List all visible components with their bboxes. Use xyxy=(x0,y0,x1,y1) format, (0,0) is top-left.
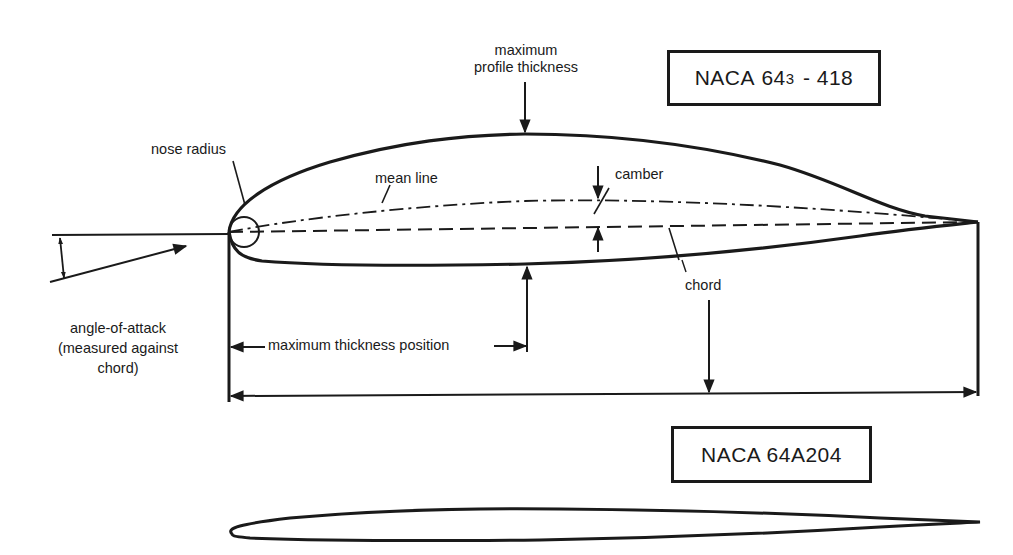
aoa-reference-line xyxy=(52,234,229,235)
naca-series: 64 xyxy=(761,66,785,90)
aoa-angle-arrow xyxy=(60,238,64,278)
chord-leader-dash xyxy=(682,260,686,272)
mean-line xyxy=(229,200,978,232)
nose-radius-leader xyxy=(233,161,245,205)
aoa-line1: angle-of-attack xyxy=(38,318,198,338)
naca-subscript: 3 xyxy=(786,70,795,87)
airfoil-profile-lower xyxy=(229,222,978,265)
aoa-line3: chord) xyxy=(38,358,198,378)
naca-64-3-418-box: NACA 643 - 418 xyxy=(667,50,881,106)
max-profile-thickness-label: maximum profile thickness xyxy=(444,42,608,76)
max-profile-thickness-line1: maximum xyxy=(444,42,608,59)
max-thickness-position-label: maximum thickness position xyxy=(268,337,449,354)
aoa-line2: (measured against xyxy=(38,338,198,358)
chord-line xyxy=(229,222,978,232)
mean-line-leader xyxy=(382,185,390,203)
inflow-arrow xyxy=(50,246,186,282)
airfoil-profile-64a204 xyxy=(231,509,980,541)
airfoil-profile-upper xyxy=(229,134,978,232)
max-profile-thickness-line2: profile thickness xyxy=(444,59,608,76)
chord-dimension-line xyxy=(231,392,976,396)
naca-prefix: NACA xyxy=(695,66,755,90)
naca-suffix: - 418 xyxy=(803,66,853,90)
mean-line-label: mean line xyxy=(375,170,438,187)
chord-label: chord xyxy=(685,277,721,294)
camber-label: camber xyxy=(615,166,663,183)
angle-of-attack-label: angle-of-attack (measured against chord) xyxy=(38,318,198,378)
naca-64a204-label: NACA 64A204 xyxy=(701,443,842,467)
naca-64a204-box: NACA 64A204 xyxy=(671,426,872,483)
nose-radius-label: nose radius xyxy=(151,141,226,158)
